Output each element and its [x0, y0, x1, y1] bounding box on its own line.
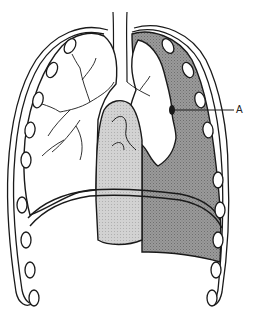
thorax-diagram — [0, 0, 255, 319]
label-a: A — [236, 105, 243, 115]
heart — [96, 101, 142, 245]
